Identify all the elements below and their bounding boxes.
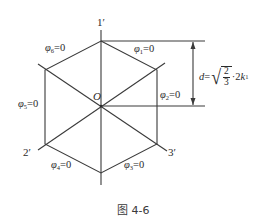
arrowhead-up-icon [191,42,196,49]
axis-label-3: 3′ [168,147,176,158]
edge-label-phi4: φ4=0 [51,160,71,172]
edge-label-phi1: φ1=0 [134,44,154,56]
arrowhead-down-icon [191,98,196,105]
edge-label-phi2: φ2=0 [160,90,180,102]
hexagon-diagram [0,0,260,224]
axis-label-1: 1′ [97,17,105,28]
origin-point [100,105,103,108]
dimension-formula: d = √ 2 3 ·2 k1 [199,66,248,88]
edge-label-phi5: φ5=0 [18,99,38,111]
formula-equals: = [204,71,210,82]
axis-3-line [38,64,167,151]
formula-k-index: 1 [245,73,248,80]
fraction: 2 3 [221,66,232,88]
radical-sign-icon: √ [211,67,221,88]
axis-label-2: 2′ [23,147,31,158]
origin-label: O [93,91,101,102]
figure-caption: 图 4-6 [117,201,149,217]
square-root: √ 2 3 [211,66,232,88]
edge-label-phi6: φ6=0 [45,43,65,55]
edge-label-phi3: φ3=0 [124,160,144,172]
fraction-denominator: 3 [224,78,229,88]
formula-multiplier: ·2 [232,71,241,82]
